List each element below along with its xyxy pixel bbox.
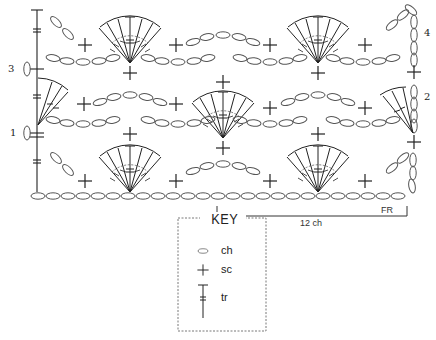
left-half-fan: [38, 78, 68, 125]
key-label-sc: sc: [221, 263, 232, 275]
row-label-4: 4: [424, 27, 430, 38]
fan-stitch: [99, 145, 161, 192]
key-title: KEY: [211, 210, 238, 227]
foundation-chain: [31, 193, 405, 199]
row-label-3: 3: [8, 63, 14, 74]
key-tr-symbol: [198, 285, 208, 318]
repeat-label: 12 ch: [300, 218, 322, 228]
fan-stitch: [287, 145, 349, 192]
right-edge-stitches: [380, 3, 421, 193]
key-label-tr: tr: [221, 291, 228, 303]
crochet-chart: [0, 0, 436, 340]
row-label-2: 2: [424, 91, 430, 102]
row-label-1: 1: [10, 127, 16, 138]
fan-stitch: [192, 91, 254, 138]
repeat-end-label: FR: [381, 205, 393, 215]
left-edge-stitches: [30, 10, 44, 192]
key-label-ch: ch: [221, 244, 233, 256]
